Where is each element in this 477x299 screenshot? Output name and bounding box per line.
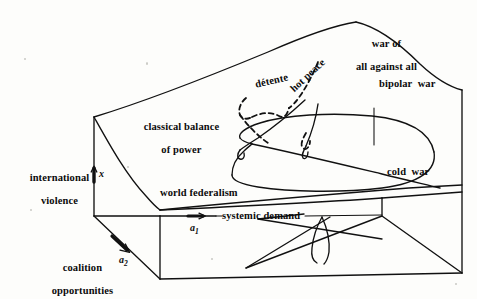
scan-speck xyxy=(211,258,213,260)
scan-speck xyxy=(146,62,148,65)
label-bipolar-war: bipolar war xyxy=(379,78,435,90)
axis-a1-leader-right xyxy=(305,215,382,216)
axis-x-group xyxy=(91,117,97,216)
label-world-federalism: world federalism xyxy=(160,187,238,199)
label-classical-balance-line1: classical balance xyxy=(144,121,220,132)
label-classical-balance-line2: of power xyxy=(161,144,201,155)
base-edge-front xyxy=(160,273,462,279)
label-classical-balance-of-power: classical balance of power xyxy=(108,109,244,167)
label-coalition-line1: coalition xyxy=(63,262,102,273)
bifurcation-set-group xyxy=(312,217,329,264)
axis-a2-symbol-sub: 2 xyxy=(124,259,128,268)
label-systemic-demand: systemic demand xyxy=(222,210,300,222)
label-coalition-opportunities: coalition opportunities xyxy=(38,250,116,299)
fold-edge-hotpeace-side xyxy=(306,104,318,146)
label-international-violence-line2: violence xyxy=(41,195,78,206)
scan-speck xyxy=(24,58,26,60)
label-coalition-line2: opportunities xyxy=(52,285,113,296)
label-cold-war: cold war xyxy=(387,166,429,178)
label-international-violence: international violence xyxy=(16,160,92,218)
axis-a2-arrow xyxy=(112,236,127,250)
scan-speck xyxy=(455,283,457,285)
label-war-of-all-line1: war of xyxy=(372,38,401,49)
label-war-of-all-against-all: war of all against all xyxy=(322,26,440,84)
axis-x-symbol: x xyxy=(99,168,104,180)
scan-speck xyxy=(30,209,32,211)
axis-a2-symbol: a2 xyxy=(119,254,128,270)
hidden-fold-tail xyxy=(240,115,268,143)
label-war-of-all-line2: all against all xyxy=(356,61,417,72)
cusp-branch-upper xyxy=(322,217,329,264)
axis-a1-symbol-sub: 1 xyxy=(195,227,199,236)
trajectory-line-2 xyxy=(246,217,330,268)
skirt-diagonal-right xyxy=(382,216,462,273)
hidden-fold-connector xyxy=(252,108,289,117)
axis-a1-symbol: a1 xyxy=(190,222,199,238)
fold-edge-detente-side xyxy=(240,100,305,150)
cusp-catastrophe-figure: classical balance of power war of all ag… xyxy=(0,0,477,299)
fold-upper-lip xyxy=(240,114,434,152)
scan-speck xyxy=(127,166,129,168)
lower-sheet-right-edge xyxy=(382,192,462,198)
label-international-violence-line1: international xyxy=(30,172,90,183)
